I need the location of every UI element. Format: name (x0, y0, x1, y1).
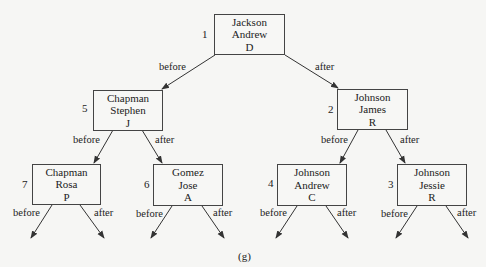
edge-label-before: before (136, 208, 163, 219)
edge-label-before: before (260, 207, 287, 218)
edge-label-after: after (315, 61, 334, 72)
node-initial: D (246, 41, 254, 54)
node-johnson-james: Johnson James R (337, 89, 408, 130)
node-first-name: Stephen (110, 104, 145, 117)
edge-label-before: before (13, 207, 40, 218)
edge-label-before: before (381, 208, 408, 219)
node-last-name: Johnson (354, 91, 390, 104)
edge-label-after: after (457, 207, 476, 218)
edge-label-after: after (155, 134, 174, 145)
node-first-name: Rosa (56, 178, 78, 191)
edge-label-before: before (159, 61, 186, 72)
order-number: 6 (144, 178, 150, 190)
node-first-name: Jose (179, 179, 198, 192)
node-first-name: Jessie (419, 179, 445, 192)
node-jackson-andrew: Jackson Andrew D (214, 14, 285, 55)
figure-caption: (g) (238, 250, 251, 262)
node-initial: R (369, 116, 376, 129)
edge-label-before: before (321, 134, 348, 145)
order-number: 2 (328, 103, 334, 115)
edge-label-after: after (94, 207, 113, 218)
node-johnson-andrew: Johnson Andrew C (277, 164, 347, 206)
node-initial: C (308, 191, 315, 204)
edge-label-after: after (337, 207, 356, 218)
node-last-name: Jackson (232, 16, 267, 29)
node-initial: P (63, 191, 69, 204)
order-number: 3 (388, 178, 394, 190)
edge-label-before: before (73, 134, 100, 145)
node-initial: A (184, 191, 192, 204)
node-first-name: Andrew (294, 179, 329, 192)
node-first-name: James (359, 103, 386, 116)
node-last-name: Johnson (414, 166, 450, 179)
edge-label-after: after (213, 207, 232, 218)
order-number: 7 (22, 178, 28, 190)
node-chapman-stephen: Chapman Stephen J (93, 90, 163, 131)
order-number: 5 (82, 102, 88, 114)
node-first-name: Andrew (232, 28, 267, 41)
order-number: 1 (202, 28, 208, 40)
node-johnson-jessie: Johnson Jessie R (397, 164, 467, 206)
node-last-name: Johnson (294, 166, 330, 179)
node-initial: J (126, 117, 130, 130)
node-chapman-rosa: Chapman Rosa P (32, 164, 101, 205)
node-last-name: Chapman (107, 92, 149, 105)
node-last-name: Chapman (45, 166, 87, 179)
order-number: 4 (268, 177, 274, 189)
node-last-name: Gomez (172, 166, 204, 179)
node-initial: R (428, 191, 435, 204)
edge-label-after: after (400, 134, 419, 145)
node-gomez-jose: Gomez Jose A (153, 164, 223, 206)
